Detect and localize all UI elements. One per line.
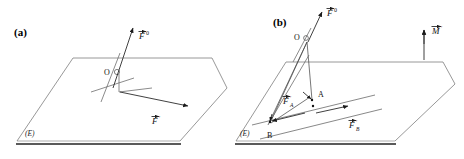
vector-FB-b [316,106,348,113]
vector-label-FB-b: F ' B [348,119,360,132]
line-O-to-A [307,42,312,100]
plane-label-a: (E) [25,129,35,138]
vector-F0-a-base: F [138,31,145,41]
vector-Fprime-a [120,92,188,106]
panel-label-b: (b) [273,16,287,29]
point-A-dot [311,99,313,101]
vector-label-Fprime-a: F ' [151,115,160,126]
vector-Fprime-a-superscript: ' [159,115,160,121]
vector-Fprime-a-base: F [151,116,158,126]
panel-label-a: (a) [14,26,27,39]
point-A-dot-2 [312,105,314,107]
arrow-at-A [303,92,311,99]
vector-Mprime-base: M [431,26,440,36]
vector-FA-b-superscript: ' [290,95,291,101]
vector-F0-b-base: F [326,8,333,18]
vector-FB-b-superscript: ' [356,119,357,125]
vector-FB-b-base: F [348,120,355,130]
point-B-label: B [267,131,272,140]
panel-a: (E) (a) O F 0 [14,26,227,144]
force-line-B [260,109,382,139]
vector-label-Mprime-b: M ' [431,25,442,36]
vector-FB-b-subscript: B [356,126,360,132]
vector-FA-b-base: F [282,96,289,106]
vector-Mprime-superscript: ' [441,25,442,31]
origin-label-a: O [104,68,110,77]
line-O-to-B-2 [271,42,307,121]
vector-label-FA-b: F ' A [282,95,294,108]
figure-root: (E) (a) O F 0 [0,0,464,159]
panel-b: (E) (b) O F 0 [235,7,455,144]
point-B-dot [269,121,271,123]
vector-F0-b [308,12,322,42]
vector-FA-b-subscript: A [289,102,294,108]
vector-FA-b [272,113,305,121]
physics-diagram: (E) (a) O F 0 [0,0,464,159]
plane-label-b: (E) [240,129,250,138]
origin-label-b: O [294,33,300,42]
point-A-label: A [318,90,324,99]
vector-F0-a-superscript: 0 [146,30,149,36]
plane-a [16,58,227,144]
vector-label-F0-b: F 0 [326,7,337,18]
vector-F0-b-superscript: 0 [334,7,337,13]
vector-label-F0-a: F 0 [138,30,149,41]
